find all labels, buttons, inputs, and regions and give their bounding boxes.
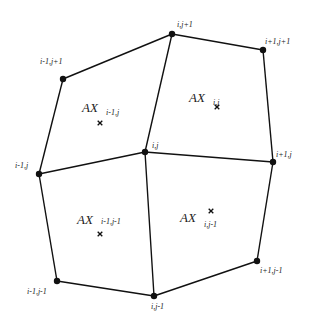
cell-variable: AX [81, 100, 99, 115]
node-label: i+1,j-1 [260, 266, 283, 275]
grid-edge [154, 261, 257, 296]
grid-nodes [36, 31, 276, 299]
grid-edge [57, 281, 154, 296]
grid-edge [145, 152, 273, 162]
node-dot-icon [270, 159, 276, 165]
cell-subscript: i,j-1 [204, 220, 217, 229]
grid-edge [257, 162, 273, 261]
grid-edge [39, 79, 63, 174]
grid-edge [145, 34, 172, 152]
node-dot-icon [60, 76, 66, 82]
grid-edge [263, 50, 273, 162]
cell-subscript: i-1,j-1 [101, 217, 121, 226]
node-label: i+1,j [276, 150, 293, 159]
cell-center-cross-icon [98, 121, 103, 126]
node-dot-icon [36, 171, 42, 177]
grid-edge [39, 152, 145, 174]
node-label: i,j+1 [177, 20, 193, 29]
cell-label-group: AXi-1,j-1 [76, 212, 121, 236]
node-dot-icon [254, 258, 260, 264]
cell-label-group: AXi,j-1 [179, 209, 217, 229]
grid-diagram: i-1,j+1i,j+1i+1,j+1i-1,ji,ji+1,ji-1,j-1i… [0, 0, 311, 325]
cell-subscript: i-1,j [106, 108, 120, 117]
node-dot-icon [151, 293, 157, 299]
node-dot-icon [142, 149, 148, 155]
grid-edge [63, 34, 172, 79]
cell-label-group: AXi-1,j [81, 100, 120, 125]
grid-edge [39, 174, 57, 281]
cell-labels: AXi-1,jAXi,jAXi-1,j-1AXi,j-1 [76, 90, 220, 236]
cell-variable: AX [76, 212, 94, 227]
node-label: i-1,j-1 [27, 287, 47, 296]
node-label: i,j-1 [151, 302, 164, 311]
cell-label-group: AXi,j [188, 90, 220, 109]
node-label: i+1,j+1 [265, 37, 290, 46]
cell-center-cross-icon [209, 209, 214, 214]
grid-edge [172, 34, 263, 50]
node-label: i-1,j+1 [40, 57, 63, 66]
node-labels: i-1,j+1i,j+1i+1,j+1i-1,ji,ji+1,ji-1,j-1i… [15, 20, 293, 311]
grid-edge [145, 152, 154, 296]
cell-variable: AX [179, 210, 197, 225]
node-label: i-1,j [15, 161, 29, 170]
cell-variable: AX [188, 90, 206, 105]
grid-edges [39, 34, 273, 296]
node-dot-icon [169, 31, 175, 37]
cell-center-cross-icon [98, 232, 103, 237]
node-label: i,j [152, 141, 159, 150]
node-dot-icon [54, 278, 60, 284]
node-dot-icon [260, 47, 266, 53]
